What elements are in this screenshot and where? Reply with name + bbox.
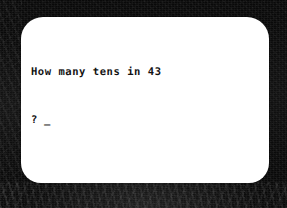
input-prompt-line[interactable]: ?_ — [31, 114, 162, 126]
console-text-area: How many tens in 43 ?_ — [31, 30, 162, 162]
prompt-symbol: ? — [31, 114, 38, 126]
question-line: How many tens in 43 — [31, 66, 162, 78]
text-cursor: _ — [44, 114, 51, 126]
crt-monitor-photo: How many tens in 43 ?_ — [0, 0, 287, 208]
crt-screen[interactable]: How many tens in 43 ?_ — [21, 17, 269, 183]
